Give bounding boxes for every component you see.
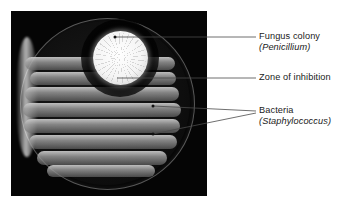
label-bacteria-scientific: (Staphylococcus)	[259, 116, 331, 127]
figure-container: Fungus colony (Penicillium) Zone of inhi…	[0, 0, 355, 209]
label-fungus-colony-scientific: (Penicillium)	[259, 42, 320, 53]
anchor-dot-bacteria-lower	[152, 133, 155, 136]
anchor-dot-bacteria-upper	[152, 105, 155, 108]
label-zone-of-inhibition: Zone of inhibition	[259, 72, 331, 83]
label-fungus-colony-name: Fungus colony	[259, 31, 320, 42]
leader-line-bacteria-lower	[153, 113, 256, 134]
label-fungus-colony: Fungus colony (Penicillium)	[259, 31, 320, 53]
leader-line-bacteria-upper	[153, 106, 256, 111]
label-bacteria-name: Bacteria	[259, 105, 331, 116]
anchor-dot-fungus-colony	[114, 36, 117, 39]
label-zone-of-inhibition-name: Zone of inhibition	[259, 72, 331, 83]
label-bacteria: Bacteria (Staphylococcus)	[259, 105, 331, 127]
